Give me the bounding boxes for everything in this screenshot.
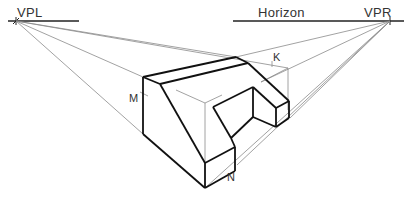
top-edge-left	[143, 77, 160, 84]
label-k: K	[273, 52, 280, 63]
slant-left	[160, 84, 205, 163]
label-n: N	[227, 172, 235, 183]
vpl-to-bottom-left	[16, 21, 143, 134]
top-edge-inner	[160, 63, 248, 84]
perspective-diagram	[0, 0, 408, 199]
pocket-floor-right	[253, 117, 276, 127]
pocket-top-left	[213, 87, 253, 107]
label-horizon: Horizon	[258, 6, 305, 19]
object-outline	[143, 57, 289, 188]
label-vpr: VPR	[364, 6, 392, 19]
bottom-left-edge	[143, 134, 205, 188]
pocket-slant	[253, 87, 276, 108]
top-edge-front	[143, 57, 236, 77]
m-tick	[140, 92, 148, 96]
vpl-to-back	[16, 21, 236, 57]
right-block-top	[276, 101, 289, 108]
vpr-to-bottom-front	[205, 21, 390, 188]
slant-right	[248, 63, 289, 101]
construction-lines	[16, 21, 390, 188]
pocket-floor	[231, 117, 253, 138]
top-edge-right	[236, 57, 248, 63]
label-m: M	[129, 93, 138, 104]
vpr-to-top-back	[236, 21, 390, 57]
hidden-left-edge	[176, 90, 205, 103]
front-lower-top	[205, 147, 235, 163]
label-vpl: VPL	[17, 6, 42, 19]
vpr-to-k	[261, 21, 390, 82]
vpl-to-top-front-corner	[16, 21, 143, 77]
pocket-left-down	[213, 107, 231, 138]
pocket-floor-to-front	[231, 138, 235, 147]
hidden-right-edge	[205, 95, 222, 103]
